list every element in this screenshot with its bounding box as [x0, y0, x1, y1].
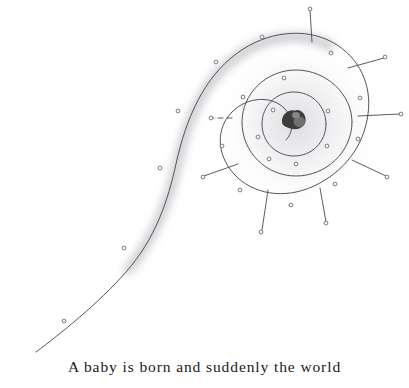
scatter-dot-11: [356, 137, 360, 141]
ray-tip-dot-0: [308, 7, 312, 11]
scatter-dot-6: [326, 109, 330, 113]
scatter-dot-8: [176, 109, 180, 113]
ray-tip-dot-1: [383, 55, 387, 59]
scatter-dot-9: [256, 135, 260, 139]
ray-tip-dot-4: [324, 221, 328, 225]
ray-tip-dot-7: [209, 116, 213, 120]
ray-tip-dot-5: [259, 230, 263, 234]
scatter-dot-13: [267, 157, 271, 161]
scatter-dot-19: [122, 246, 126, 250]
scatter-dot-10: [325, 144, 329, 148]
scatter-dot-2: [329, 51, 333, 55]
scatter-dot-5: [358, 96, 362, 100]
ray-tip-dot-3: [385, 175, 389, 179]
scatter-dot-17: [333, 182, 337, 186]
scatter-dot-16: [238, 188, 242, 192]
scatter-dot-4: [241, 95, 245, 99]
scatter-dot-14: [294, 162, 298, 166]
scatter-dot-15: [158, 166, 162, 170]
ray-tip-dot-6: [201, 175, 205, 179]
illustration-page: A baby is born and suddenly the world: [0, 0, 409, 388]
scatter-dot-20: [62, 319, 66, 323]
ray-tip-dot-2: [399, 112, 403, 116]
scatter-dot-18: [289, 203, 293, 207]
scatter-dot-0: [260, 35, 264, 39]
spiral-illustration: [0, 0, 409, 388]
scatter-dot-1: [214, 60, 218, 64]
scatter-dot-3: [282, 76, 286, 80]
scatter-dot-7: [271, 108, 275, 112]
scatter-dot-12: [220, 144, 224, 148]
caption-text: A baby is born and suddenly the world: [0, 358, 409, 376]
